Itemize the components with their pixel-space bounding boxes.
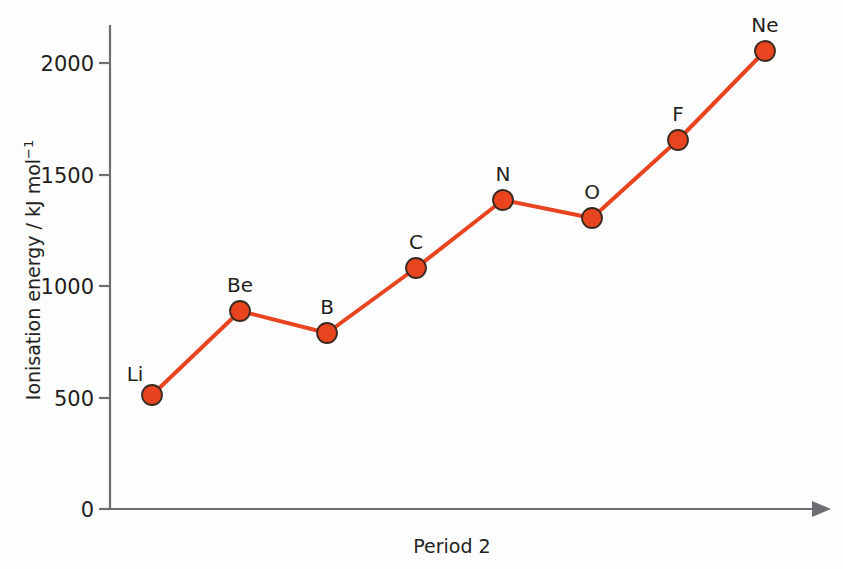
y-axis-title: Ionisation energy / kJ mol−1 [21, 140, 45, 400]
y-axis-title-superscript: −1 [21, 140, 36, 159]
x-axis-title: Period 2 [413, 535, 490, 557]
y-axis-tick-labels: 0 500 1000 1500 2000 [41, 52, 94, 522]
data-point-be[interactable] [230, 301, 250, 321]
y-tick-label-1500: 1500 [41, 164, 94, 188]
y-tick-label-2000: 2000 [41, 52, 94, 76]
data-point-c[interactable] [406, 258, 426, 278]
data-point-label-o: O [584, 180, 600, 204]
y-tick-label-1000: 1000 [41, 275, 94, 299]
y-axis-ticks [99, 63, 110, 509]
data-point-li[interactable] [142, 385, 162, 405]
data-point-label-ne: Ne [751, 13, 778, 37]
data-point-label-n: N [496, 162, 511, 186]
axes-group [110, 25, 831, 517]
y-tick-label-500: 500 [54, 387, 94, 411]
data-point-label-be: Be [227, 273, 253, 297]
y-tick-label-0: 0 [81, 498, 94, 522]
ionisation-energy-line-chart: 0 500 1000 1500 2000 Ionisation energy /… [0, 0, 843, 569]
data-point-o[interactable] [582, 208, 602, 228]
data-point-ne[interactable] [755, 41, 775, 61]
data-point-f[interactable] [668, 130, 688, 150]
chart-figure: 0 500 1000 1500 2000 Ionisation energy /… [0, 0, 843, 569]
data-point-label-li: Li [127, 362, 144, 386]
y-axis-title-group: Ionisation energy / kJ mol−1 [21, 140, 45, 400]
data-point-markers [142, 41, 775, 405]
data-point-labels: Li Be B C N O F Ne [127, 13, 779, 386]
data-point-label-c: C [409, 230, 423, 254]
data-point-n[interactable] [493, 190, 513, 210]
data-point-label-f: F [672, 102, 684, 126]
data-point-label-b: B [320, 295, 334, 319]
x-axis-arrowhead [812, 501, 831, 517]
data-point-b[interactable] [317, 323, 337, 343]
y-axis-title-main: Ionisation energy / kJ mol [22, 159, 44, 400]
